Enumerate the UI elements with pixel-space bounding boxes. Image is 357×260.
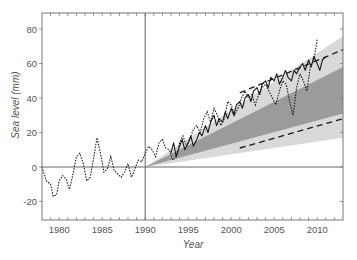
- y-tick-label: -20: [23, 196, 37, 207]
- x-tick-label: 2005: [264, 224, 285, 235]
- y-tick-label: 20: [26, 127, 37, 138]
- y-tick-label: 40: [26, 93, 37, 104]
- x-tick-label: 1980: [49, 224, 70, 235]
- x-tick-label: 1995: [178, 224, 199, 235]
- x-tick-label: 1990: [135, 224, 156, 235]
- x-tick-label: 1985: [92, 224, 113, 235]
- y-tick-label: 80: [26, 24, 37, 35]
- sea-level-chart: 1980198519901995200020052010 -2002040608…: [0, 0, 357, 260]
- y-axis-title: Sea level (mm): [10, 71, 21, 138]
- x-axis-title: Year: [183, 239, 204, 250]
- x-tick-label: 2000: [221, 224, 242, 235]
- y-tick-label: 0: [32, 162, 37, 173]
- x-tick-label: 2010: [307, 224, 328, 235]
- y-tick-label: 60: [26, 58, 37, 69]
